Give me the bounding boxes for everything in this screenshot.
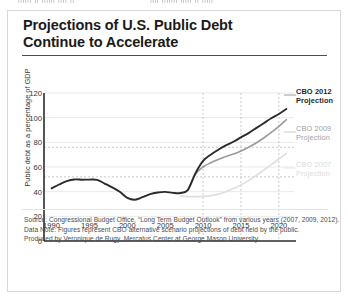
ghost-text-right: llll lllllll lllll ll lllll: [150, 0, 213, 5]
footer-data-note: Data Note: Figures represent CBO alterna…: [24, 225, 332, 235]
annotation-cbo-2012-line1: CBO 2012: [296, 87, 333, 96]
annotation-cbo-2007-line1: CBO 2007: [296, 160, 331, 169]
annotation-cbo-2009-line2: Projection: [296, 133, 331, 142]
title-line-1: Projections of U.S. Public Debt: [23, 17, 233, 33]
annotation-cbo-2007: CBO 2007 Projection: [296, 160, 331, 178]
title-line-2: Continue to Accelerate: [23, 34, 323, 51]
annotation-cbo-2012-line2: Projection: [296, 96, 333, 105]
annotation-cbo-2009-line1: CBO 2009: [296, 124, 331, 133]
annotation-cbo-2012: CBO 2012 Projection: [296, 87, 333, 105]
page-title: Projections of U.S. Public Debt Continue…: [23, 17, 323, 50]
page-top-strip: llllll ll llllll llll ll llll lllllll ll…: [0, 0, 348, 10]
footer-source: Source: Congressional Budget Office, “Lo…: [24, 215, 332, 225]
series-line-0: [52, 109, 287, 200]
series-line-2: [180, 153, 286, 196]
footer-producer: Produced by Veronique de Rugy, Mercatus …: [24, 234, 332, 244]
title-divider: [22, 55, 327, 56]
annotation-cbo-2007-line2: Projection: [296, 169, 331, 178]
annotation-cbo-2009: CBO 2009 Projection: [296, 124, 331, 142]
footer-divider: [22, 209, 328, 210]
footer-notes: Source: Congressional Budget Office, “Lo…: [24, 215, 332, 244]
ghost-text-left: llllll ll llllll llll ll: [18, 0, 74, 5]
chart-card: Projections of U.S. Public Debt Continue…: [7, 10, 341, 292]
